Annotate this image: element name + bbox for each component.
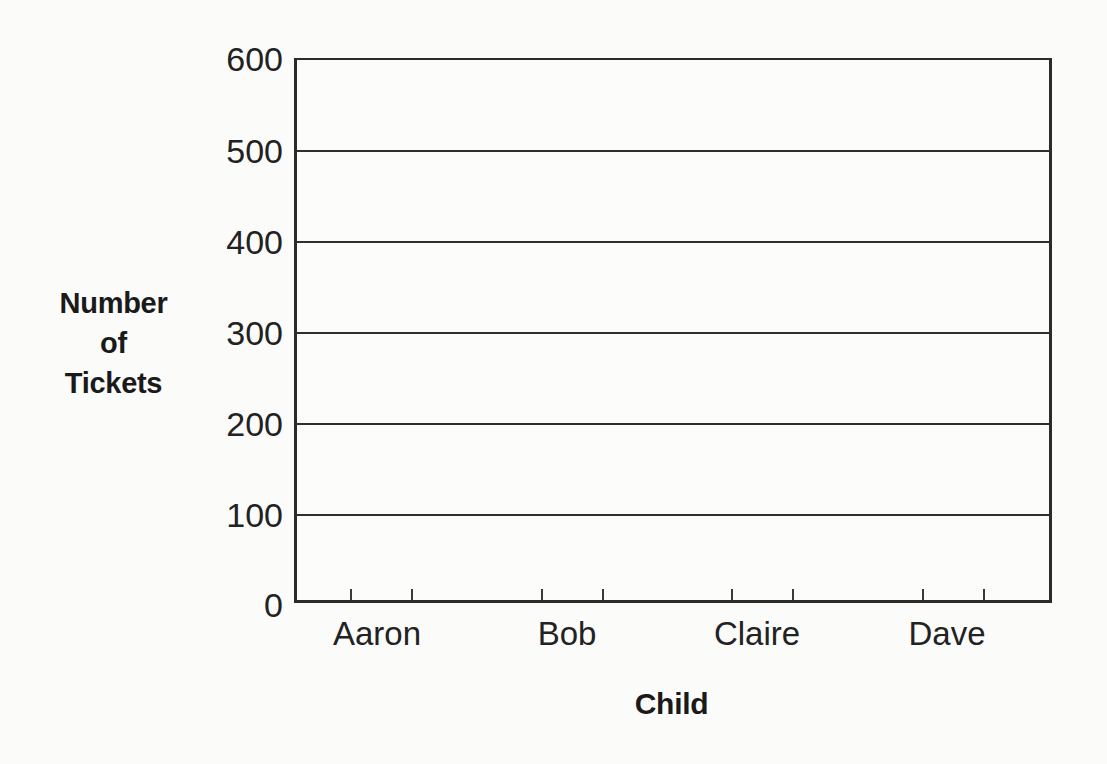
gridline-400: [297, 241, 1049, 243]
x-category-label-claire: Claire: [657, 617, 857, 650]
x-axis-title-text: Child: [635, 687, 709, 721]
x-tick-bob-end: [602, 589, 604, 600]
x-tick-claire-end: [792, 589, 794, 600]
x-category-label-dave: Dave: [847, 617, 1047, 650]
x-tick-aaron-end: [411, 589, 413, 600]
x-tick-claire-start: [731, 589, 733, 600]
gridline-500: [297, 150, 1049, 152]
y-tick-label-300: 300: [133, 316, 283, 350]
y-tick-label-100: 100: [133, 498, 283, 532]
y-tick-label-200: 200: [133, 407, 283, 441]
x-tick-aaron-start: [350, 589, 352, 600]
gridline-300: [297, 332, 1049, 334]
y-tick-label-0: 0: [133, 588, 283, 622]
gridline-200: [297, 423, 1049, 425]
y-axis-title-line-3: Tickets: [6, 363, 221, 403]
gridline-100: [297, 514, 1049, 516]
y-tick-label-500: 500: [133, 134, 283, 168]
x-category-label-bob: Bob: [467, 617, 667, 650]
y-tick-label-600: 600: [133, 42, 283, 76]
x-tick-bob-start: [541, 589, 543, 600]
x-axis-title: Child: [0, 687, 1107, 721]
x-tick-dave-start: [922, 589, 924, 600]
y-tick-label-400: 400: [133, 225, 283, 259]
x-category-label-aaron: Aaron: [277, 617, 477, 650]
plot-area: [294, 58, 1052, 603]
chart-page: Number of Tickets 600 500 400 300 200 10…: [0, 0, 1107, 764]
x-tick-dave-end: [983, 589, 985, 600]
